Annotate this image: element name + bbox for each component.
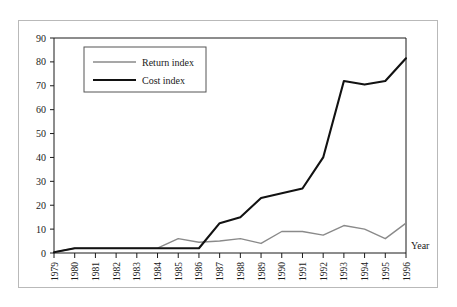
- y-tick-label: 10: [36, 224, 46, 235]
- y-tick-label: 0: [41, 248, 46, 259]
- y-tick-label: 40: [36, 152, 46, 163]
- y-tick-label-group: 0102030405060708090: [36, 33, 46, 259]
- x-tick-label: 1986: [194, 262, 204, 281]
- y-tick-label: 60: [36, 104, 46, 115]
- legend-label-cost-index: Cost index: [142, 75, 185, 86]
- x-tick-label: 1990: [277, 262, 287, 281]
- x-tick-label: 1989: [257, 262, 267, 281]
- x-tick-label: 1979: [50, 262, 60, 281]
- y-tick-label: 30: [36, 176, 46, 187]
- x-tick-group: [54, 253, 406, 258]
- x-tick-label: 1992: [319, 262, 329, 281]
- x-axis-title: Year: [411, 240, 430, 251]
- x-tick-label: 1982: [112, 262, 122, 281]
- y-tick-label: 70: [36, 80, 46, 91]
- y-tick-group: [50, 38, 54, 253]
- x-tick-label: 1996: [402, 262, 412, 281]
- x-tick-label: 1991: [298, 262, 308, 281]
- x-tick-label: 1980: [70, 262, 80, 281]
- x-tick-label: 1987: [215, 262, 225, 281]
- x-tick-label-group: 1979198019811982198319841985198619871988…: [50, 262, 412, 281]
- y-tick-label: 20: [36, 200, 46, 211]
- x-tick-label: 1981: [91, 262, 101, 281]
- x-tick-label: 1995: [381, 262, 391, 281]
- x-tick-label: 1988: [236, 262, 246, 281]
- chart-figure: 0102030405060708090 19791980198119821983…: [0, 0, 457, 307]
- x-tick-label: 1994: [360, 262, 370, 281]
- legend: Return index Cost index: [84, 47, 206, 92]
- x-tick-label: 1983: [132, 262, 142, 281]
- y-tick-label: 80: [36, 56, 46, 67]
- y-tick-label: 50: [36, 128, 46, 139]
- legend-label-return-index: Return index: [142, 57, 194, 68]
- x-tick-label: 1993: [339, 262, 349, 281]
- x-tick-label: 1984: [153, 262, 163, 281]
- line-chart: 0102030405060708090 19791980198119821983…: [0, 0, 457, 307]
- y-tick-label: 90: [36, 33, 46, 44]
- x-tick-label: 1985: [174, 262, 184, 281]
